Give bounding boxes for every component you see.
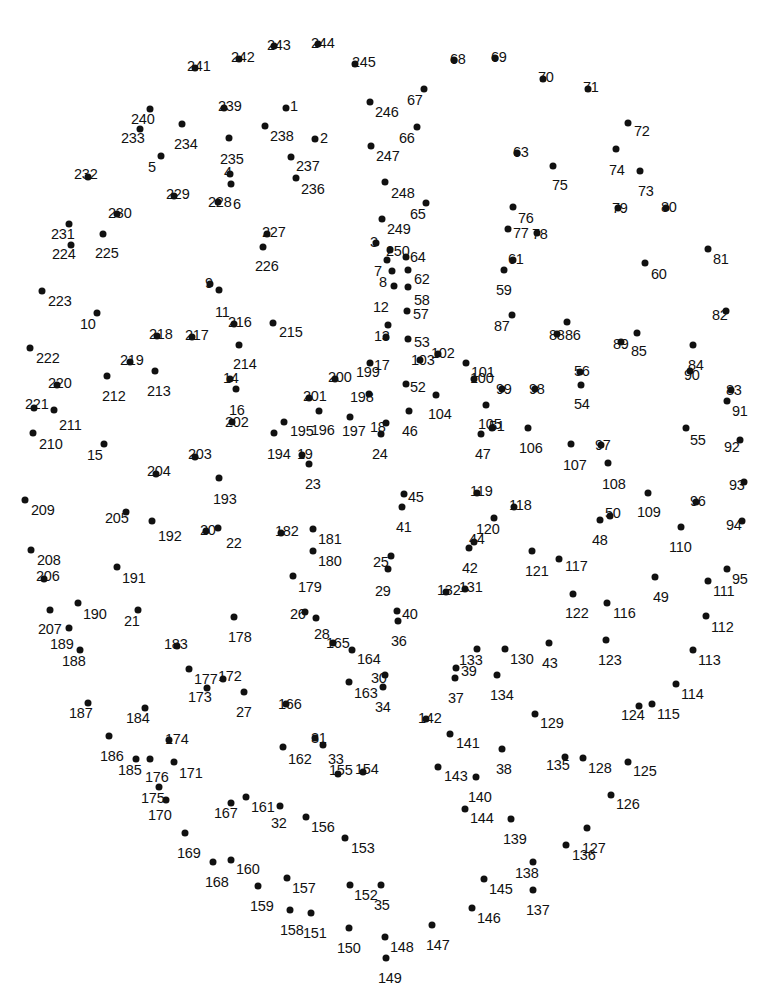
puzzle-dot	[389, 268, 396, 275]
puzzle-dot	[243, 794, 250, 801]
puzzle-dot	[603, 637, 610, 644]
puzzle-dot-number: 29	[375, 584, 391, 599]
puzzle-dot-number: 14	[223, 371, 239, 386]
puzzle-dot	[378, 882, 385, 889]
puzzle-dot-number: 196	[311, 423, 335, 438]
puzzle-dot-number: 125	[633, 764, 657, 779]
puzzle-dot-number: 188	[62, 654, 86, 669]
puzzle-dot-number: 96	[690, 494, 706, 509]
puzzle-dot-number: 210	[39, 437, 63, 452]
puzzle-dot	[347, 414, 354, 421]
puzzle-dot	[405, 336, 412, 343]
puzzle-dot	[293, 175, 300, 182]
puzzle-dot	[678, 524, 685, 531]
puzzle-dot-number: 199	[356, 365, 380, 380]
puzzle-dot	[158, 153, 165, 160]
puzzle-dot	[613, 146, 620, 153]
puzzle-dot-number: 71	[583, 80, 599, 95]
puzzle-dot-number: 149	[378, 971, 402, 986]
puzzle-dot-number: 26	[290, 607, 306, 622]
puzzle-dot	[216, 475, 223, 482]
puzzle-dot	[597, 517, 604, 524]
puzzle-dot	[260, 244, 267, 251]
puzzle-dot-number: 117	[565, 559, 588, 574]
puzzle-dot-number: 107	[563, 458, 587, 473]
puzzle-dot-number: 114	[681, 687, 704, 702]
puzzle-dot	[378, 431, 385, 438]
puzzle-dot	[382, 179, 389, 186]
puzzle-dot-number: 190	[83, 607, 107, 622]
puzzle-dot	[216, 287, 223, 294]
puzzle-dot	[703, 613, 710, 620]
puzzle-dot-number: 166	[278, 697, 302, 712]
puzzle-dot-number: 131	[459, 580, 483, 595]
puzzle-dot-number: 135	[546, 758, 570, 773]
puzzle-dot-number: 103	[411, 353, 435, 368]
puzzle-dot	[380, 684, 387, 691]
puzzle-dot-number: 212	[102, 389, 126, 404]
puzzle-dot-number: 59	[496, 283, 512, 298]
puzzle-dot	[642, 260, 649, 267]
puzzle-dot-number: 216	[228, 315, 252, 330]
puzzle-dot-number: 240	[131, 112, 155, 127]
puzzle-dot	[481, 876, 488, 883]
puzzle-dot	[226, 135, 233, 142]
puzzle-dot-number: 168	[205, 875, 229, 890]
puzzle-dot	[608, 792, 615, 799]
puzzle-dot-number: 111	[713, 584, 734, 599]
puzzle-dot	[303, 814, 310, 821]
puzzle-dot-number: 86	[565, 328, 581, 343]
puzzle-dot-number: 150	[337, 941, 361, 956]
puzzle-dot	[241, 689, 248, 696]
puzzle-dot-number: 85	[631, 344, 647, 359]
puzzle-dot-number: 225	[95, 246, 119, 261]
puzzle-dot	[346, 925, 353, 932]
puzzle-dot	[171, 759, 178, 766]
puzzle-dot	[182, 830, 189, 837]
puzzle-dot-number: 65	[410, 207, 426, 222]
puzzle-dot-number: 133	[459, 653, 483, 668]
puzzle-dot-number: 68	[450, 52, 466, 67]
puzzle-dot	[262, 123, 269, 130]
puzzle-dot-number: 175	[141, 791, 165, 806]
puzzle-dot	[310, 526, 317, 533]
puzzle-dot-number: 179	[298, 580, 322, 595]
puzzle-dot-number: 77	[513, 226, 529, 241]
puzzle-dot	[368, 143, 375, 150]
puzzle-dot-number: 184	[126, 711, 150, 726]
puzzle-dot-number: 64	[410, 250, 426, 265]
puzzle-dot	[568, 441, 575, 448]
puzzle-dot-number: 247	[376, 149, 400, 164]
puzzle-dot-number: 130	[510, 652, 534, 667]
puzzle-dot	[399, 504, 406, 511]
puzzle-dot-number: 227	[262, 225, 286, 240]
puzzle-dot-number: 55	[690, 433, 706, 448]
puzzle-dot-number: 21	[124, 614, 140, 629]
puzzle-dot-number: 220	[48, 376, 72, 391]
puzzle-dot-number: 217	[185, 328, 209, 343]
puzzle-dot	[625, 759, 632, 766]
puzzle-dot-number: 162	[288, 752, 312, 767]
puzzle-dot	[385, 566, 392, 573]
puzzle-dot	[405, 284, 412, 291]
puzzle-dot-number: 69	[491, 50, 507, 65]
puzzle-dot-number: 205	[105, 511, 129, 526]
puzzle-dot	[152, 368, 159, 375]
puzzle-dot-number: 45	[408, 490, 424, 505]
puzzle-dot	[637, 168, 644, 175]
puzzle-dot-number: 219	[120, 353, 144, 368]
puzzle-dot-number: 176	[145, 770, 169, 785]
puzzle-dot	[502, 646, 509, 653]
puzzle-dot	[277, 803, 284, 810]
puzzle-dot-number: 245	[352, 55, 376, 70]
puzzle-dot	[66, 625, 73, 632]
puzzle-dot	[283, 105, 290, 112]
puzzle-dot	[306, 461, 313, 468]
puzzle-dot	[308, 910, 315, 917]
puzzle-dot	[210, 859, 217, 866]
puzzle-dot	[550, 163, 557, 170]
puzzle-dot-number: 5	[148, 160, 156, 175]
puzzle-dot-number: 8	[379, 275, 387, 290]
puzzle-dot-number: 211	[59, 418, 82, 433]
puzzle-dot-number: 165	[326, 636, 350, 651]
